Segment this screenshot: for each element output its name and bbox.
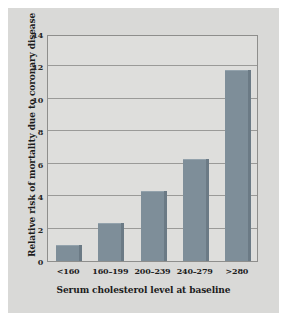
bar (56, 245, 82, 261)
x-axis-tick-labels: <160160–199200–239240–279>280 (47, 266, 258, 282)
bar-edge-shadow (121, 223, 124, 261)
plot-area (47, 35, 258, 262)
x-axis-tick: >280 (216, 266, 258, 276)
bar-edge-shadow (248, 70, 251, 261)
x-axis-tick: 240–279 (174, 266, 216, 276)
bar-edge-shadow (164, 191, 167, 261)
y-axis-tick: 8 (21, 128, 43, 136)
bar-edge-shadow (79, 245, 82, 261)
y-axis-tick: 14 (21, 31, 43, 39)
bar (183, 159, 209, 261)
y-axis-tick: 2 (21, 226, 43, 234)
figure-container: Relative risk of mortality due to corona… (0, 0, 287, 321)
x-axis-title: Serum cholesterol level at baseline (8, 285, 279, 295)
x-axis-tick: 160–199 (89, 266, 131, 276)
y-axis-tick: 10 (21, 96, 43, 104)
y-axis-tick: 4 (21, 193, 43, 201)
y-axis-tick: 6 (21, 161, 43, 169)
y-axis-tick-labels: 02468101214 (17, 35, 43, 262)
bar-edge-shadow (206, 159, 209, 261)
y-axis-tick: 0 (21, 258, 43, 266)
x-axis-tick: <160 (47, 266, 89, 276)
x-axis-tick: 200–239 (131, 266, 173, 276)
gridline (48, 65, 257, 66)
bar (98, 223, 124, 261)
bar (141, 191, 167, 261)
chart-panel: Relative risk of mortality due to corona… (8, 8, 279, 313)
bar (225, 70, 251, 261)
y-axis-tick: 12 (21, 63, 43, 71)
